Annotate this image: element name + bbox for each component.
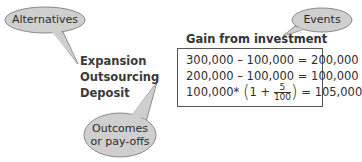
payoff-box: 300,000 – 100,000 = 200,000 200,000 – 10… bbox=[177, 48, 323, 107]
label-outsourcing: Outsourcing bbox=[80, 69, 159, 85]
fraction: 5 100 bbox=[274, 83, 291, 102]
formula-expansion: 300,000 – 100,000 = 200,000 bbox=[186, 53, 359, 67]
formula-deposit: 100,000* (1 + 5 100 ) = 105,000 bbox=[186, 82, 362, 102]
alternatives-callout-label: Alternatives bbox=[5, 13, 85, 26]
table-header: Gain from investment bbox=[186, 32, 327, 46]
one-plus: 1 + bbox=[250, 85, 271, 99]
alternative-labels: Expansion Outsourcing Deposit bbox=[80, 53, 159, 101]
fraction-numerator: 5 bbox=[274, 83, 291, 93]
fraction-denominator: 100 bbox=[274, 93, 291, 102]
right-paren: ) bbox=[291, 82, 298, 102]
left-paren: ( bbox=[243, 82, 250, 102]
outcomes-callout-label: Outcomes or pay-offs bbox=[84, 122, 156, 148]
label-expansion: Expansion bbox=[80, 53, 159, 69]
formula-outsourcing: 200,000 – 100,000 = 100,000 bbox=[186, 69, 359, 83]
events-callout-label: Events bbox=[292, 13, 352, 26]
outcomes-line-1: Outcomes bbox=[92, 122, 148, 135]
deposit-suffix: = 105,000 bbox=[301, 85, 362, 99]
outcomes-line-2: or pay-offs bbox=[90, 135, 149, 148]
label-deposit: Deposit bbox=[80, 85, 159, 101]
deposit-prefix: 100,000* bbox=[186, 85, 239, 99]
